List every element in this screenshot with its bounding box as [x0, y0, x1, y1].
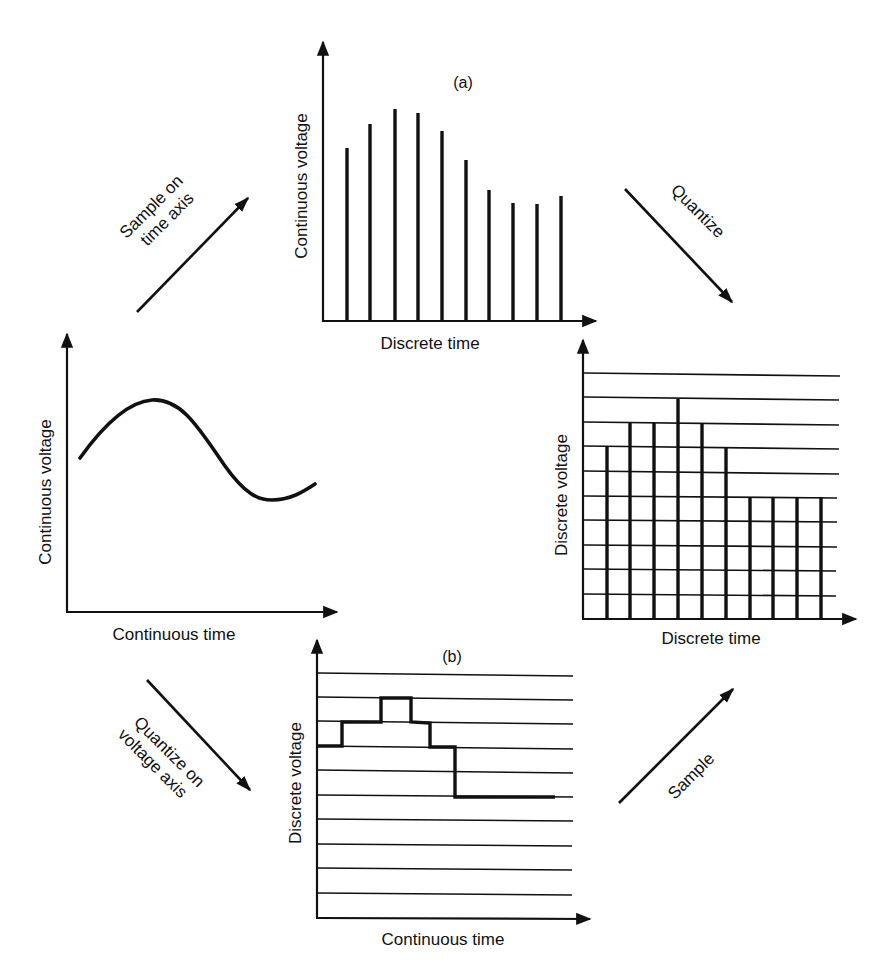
arrow-quantize-label: Quantize [667, 180, 729, 242]
panel-b-quantization-levels [318, 673, 573, 895]
sampling-quantization-diagram: (a) Continuous voltage Discrete time Con… [0, 0, 887, 980]
panel-b: (b) Discrete voltage Continuous time [286, 640, 590, 949]
digital-y-label: Discrete voltage [552, 434, 571, 556]
panel-b-x-label: Continuous time [382, 930, 505, 949]
panel-b-x-axis [316, 918, 590, 919]
svg-text:Quantize on voltage axis: Quantize on voltage axis [114, 711, 212, 809]
svg-text:Sample on time axis: Sample on time axis [116, 168, 204, 256]
arrow-sample-label: Sample [664, 749, 718, 803]
panel-b-staircase-waveform [318, 698, 555, 797]
panel-a-y-label: Continuous voltage [292, 113, 311, 259]
analog-sine-curve [80, 400, 315, 500]
arrow-quantize-on-voltage-axis: Quantize on voltage axis [114, 680, 250, 808]
panel-a-tag: (a) [453, 74, 473, 91]
panel-a-stems [347, 109, 561, 320]
analog-x-label: Continuous time [113, 625, 236, 644]
panel-b-tag: (b) [442, 648, 462, 665]
panel-a: (a) Continuous voltage Discrete time [292, 42, 596, 353]
analog-y-label: Continuous voltage [36, 419, 55, 565]
arrow-sample-on-time-axis: Sample on time axis [116, 168, 248, 312]
arrow-sample: Sample [619, 689, 733, 803]
arrow-quantize: Quantize [625, 180, 732, 302]
digital-quantization-levels [584, 373, 840, 596]
digital-stems [607, 399, 821, 618]
arrow-down-right-icon [625, 189, 732, 302]
panel-digital: Discrete voltage Discrete time [552, 340, 856, 648]
panel-a-x-label: Discrete time [380, 334, 479, 353]
digital-x-label: Discrete time [661, 629, 760, 648]
panel-b-y-label: Discrete voltage [286, 722, 305, 844]
panel-analog: Continuous voltage Continuous time [36, 334, 337, 644]
